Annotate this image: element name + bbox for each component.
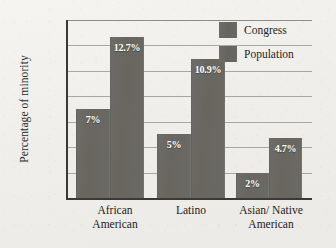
x-category-label-asian-native-american: Asian/ Native American bbox=[225, 203, 317, 231]
legend-swatch-icon bbox=[219, 46, 237, 62]
y-axis-title: Percentage of minority bbox=[18, 24, 30, 194]
bar-congress-african-american[interactable]: 7% bbox=[76, 109, 110, 198]
category-line-1: Latino bbox=[157, 203, 225, 217]
bar-value-label: 5% bbox=[157, 139, 191, 150]
chart-legend: Congress Population bbox=[219, 22, 294, 62]
legend-item-congress[interactable]: Congress bbox=[219, 22, 294, 38]
category-line-1: Asian/ Native bbox=[225, 203, 317, 217]
gridline-10: 10% bbox=[67, 71, 312, 72]
bar-congress-asian-native-american[interactable]: 2% bbox=[236, 173, 269, 198]
bar-population-asian-native-american[interactable]: 4.7% bbox=[269, 138, 302, 198]
x-axis-line bbox=[66, 198, 312, 200]
category-line-2: American bbox=[76, 217, 154, 231]
bar-population-african-american[interactable]: 12.7% bbox=[110, 37, 144, 198]
legend-label: Congress bbox=[244, 24, 287, 36]
bar-value-label: 12.7% bbox=[110, 42, 144, 53]
category-line-1: African bbox=[76, 203, 154, 217]
chart-canvas: Percentage of minority 14% 12% 10% 8% 6%… bbox=[0, 0, 336, 248]
legend-label: Population bbox=[244, 48, 294, 60]
legend-item-population[interactable]: Population bbox=[219, 46, 294, 62]
gridline-14: 14% bbox=[67, 20, 312, 21]
y-axis-line bbox=[66, 20, 68, 199]
x-category-label-african-american: African American bbox=[76, 203, 154, 231]
gridline-8: 8% bbox=[67, 96, 312, 97]
bar-congress-latino[interactable]: 5% bbox=[157, 134, 191, 198]
bar-value-label: 10.9% bbox=[191, 64, 225, 75]
legend-swatch-icon bbox=[219, 22, 237, 38]
bar-value-label: 7% bbox=[76, 114, 110, 125]
category-line-2: American bbox=[225, 217, 317, 231]
x-category-label-latino: Latino bbox=[157, 203, 225, 217]
bar-value-label: 2% bbox=[236, 178, 269, 189]
bar-value-label: 4.7% bbox=[269, 143, 302, 154]
bar-population-latino[interactable]: 10.9% bbox=[191, 59, 225, 198]
